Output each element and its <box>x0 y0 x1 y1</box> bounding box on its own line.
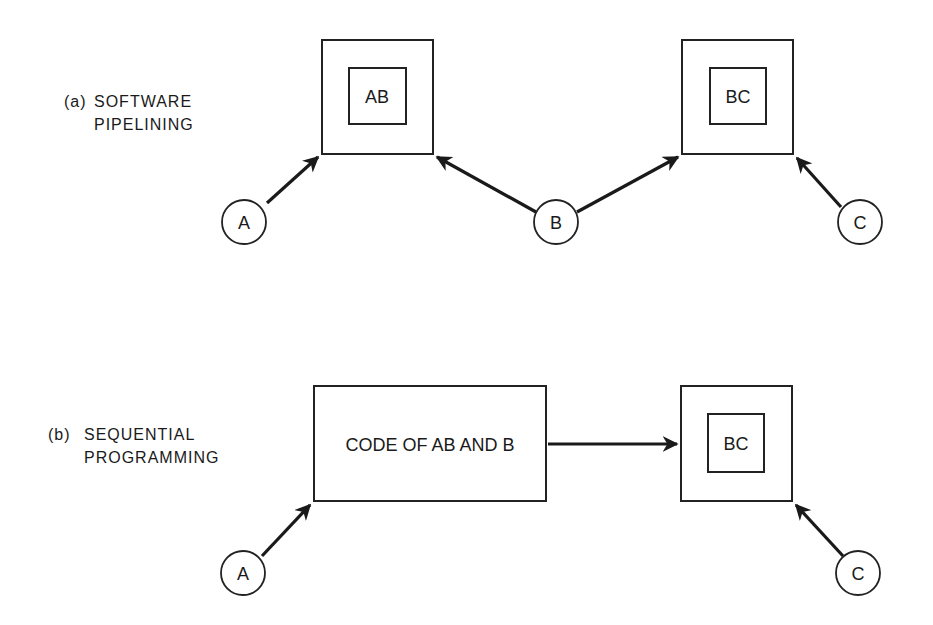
section-b-title-line2: PROGRAMMING <box>84 449 219 466</box>
section-b-label: (b) SEQUENTIAL PROGRAMMING <box>48 426 219 466</box>
arrow-c-to-bc <box>797 158 841 207</box>
node-a-label: A <box>238 213 250 233</box>
box-bc-b: BC <box>681 386 792 501</box>
box-code-label: CODE OF AB AND B <box>345 435 514 455</box>
node-c-section-b: C <box>836 551 880 595</box>
arrow-c-to-bc-b <box>796 505 843 556</box>
node-a-label: A <box>237 564 249 584</box>
diagram-canvas: (a) SOFTWARE PIPELINING AB BC A B C (b) … <box>0 0 933 625</box>
arrow-a-to-ab <box>267 157 318 203</box>
node-a-section-b: A <box>221 551 265 595</box>
section-a-title-line2: PIPELINING <box>94 116 194 133</box>
arrow-a-to-code <box>262 505 310 556</box>
node-c-section-a: C <box>838 200 882 244</box>
section-b-tag: (b) <box>48 426 71 443</box>
box-ab: AB <box>322 40 433 154</box>
node-b-label: B <box>550 213 562 233</box>
section-a-label: (a) SOFTWARE PIPELINING <box>64 93 194 133</box>
node-c-label: C <box>854 213 867 233</box>
box-code: CODE OF AB AND B <box>314 386 546 501</box>
arrow-b-to-ab <box>437 157 536 212</box>
section-a-title-line1: SOFTWARE <box>94 93 192 110</box>
box-ab-label: AB <box>365 87 389 107</box>
node-a-section-a: A <box>222 200 266 244</box>
box-bc-a-label: BC <box>725 87 750 107</box>
section-a-tag: (a) <box>64 93 87 110</box>
box-bc-b-label: BC <box>723 434 748 454</box>
section-b-title-line1: SEQUENTIAL <box>84 426 195 443</box>
node-b-section-a: B <box>534 200 578 244</box>
arrow-b-to-bc <box>577 157 678 212</box>
node-c-label: C <box>852 564 865 584</box>
box-bc-a: BC <box>682 40 793 154</box>
